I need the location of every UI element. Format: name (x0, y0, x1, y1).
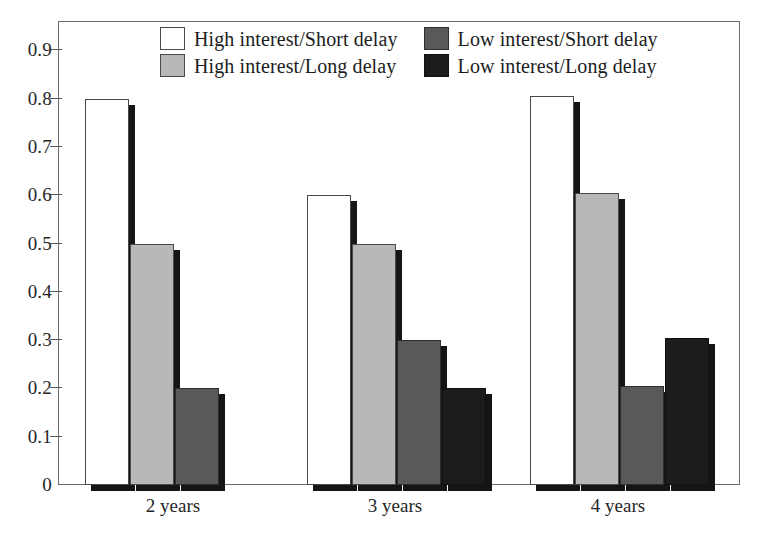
bar (575, 193, 619, 485)
legend-item: High interest/Short delay (160, 27, 398, 50)
bar-fill (352, 244, 396, 486)
x-axis-group-label: 4 years (500, 496, 736, 516)
bar (665, 338, 709, 485)
bar-fill (397, 340, 441, 485)
x-axis-group-label: 2 years (55, 496, 291, 516)
bar (307, 195, 351, 485)
bar-fill (442, 388, 486, 485)
chart-legend: High interest/Short delayLow interest/Sh… (160, 27, 658, 77)
bar-fill (575, 193, 619, 485)
bar-chart: 00.10.20.30.40.50.60.70.80.9 2 years3 ye… (0, 0, 758, 542)
legend-item: High interest/Long delay (160, 54, 398, 77)
legend-swatch-icon (160, 27, 185, 50)
legend-label: High interest/Short delay (194, 28, 398, 50)
legend-swatch-icon (424, 54, 449, 77)
legend-item: Low interest/Short delay (424, 27, 658, 50)
bar (397, 340, 441, 485)
legend-swatch-icon (424, 27, 449, 50)
bar (530, 96, 574, 485)
bar-fill (530, 96, 574, 485)
bar (442, 388, 486, 485)
x-axis-group-label: 3 years (277, 496, 513, 516)
bar-fill (130, 244, 174, 486)
bar-fill (307, 195, 351, 485)
bar (620, 386, 664, 485)
bar-fill (665, 338, 709, 485)
bar (352, 244, 396, 486)
bar (85, 99, 129, 485)
bar-fill (620, 386, 664, 485)
bar-series-layer (0, 0, 758, 542)
legend-label: Low interest/Long delay (458, 55, 657, 77)
bar (175, 388, 219, 485)
legend-swatch-icon (160, 54, 185, 77)
legend-label: Low interest/Short delay (458, 28, 658, 50)
bar-fill (175, 388, 219, 485)
legend-label: High interest/Long delay (194, 55, 396, 77)
legend-item: Low interest/Long delay (424, 54, 658, 77)
bar (130, 244, 174, 486)
bar-fill (85, 99, 129, 485)
